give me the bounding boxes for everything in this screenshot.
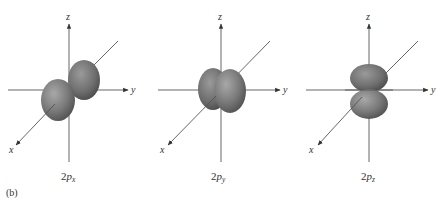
- x-axis: [16, 104, 55, 145]
- panel-2py: z y x 2py: [158, 11, 288, 184]
- z-axis-label: z: [65, 11, 70, 22]
- x-axis-label: x: [8, 144, 14, 155]
- x-axis: [318, 97, 362, 145]
- x-axis-label: x: [159, 144, 165, 155]
- orbital-label-2py: 2py: [211, 170, 226, 184]
- y-axis-label: y: [282, 84, 288, 95]
- p-orbitals-figure: z y x 2px z y x 2py z y x 2pz (b): [0, 0, 438, 200]
- x-axis: [168, 96, 216, 145]
- orbital-label-2pz: 2pz: [361, 170, 375, 184]
- orbital-lobe-right: [214, 69, 246, 113]
- y-axis-label: y: [130, 84, 136, 95]
- panel-label: (b): [6, 187, 18, 199]
- x-axis-label: x: [308, 144, 314, 155]
- panel-2pz: z y x 2pz: [306, 11, 436, 184]
- orbital-lobe-top: [350, 64, 388, 92]
- orbital-lobe-front: [41, 79, 75, 121]
- z-axis-label: z: [217, 11, 222, 22]
- y-axis-label: y: [430, 84, 436, 95]
- panel-2px: z y x 2px: [8, 11, 136, 184]
- orbital-label-2px: 2px: [61, 170, 76, 184]
- z-axis-label: z: [365, 11, 370, 22]
